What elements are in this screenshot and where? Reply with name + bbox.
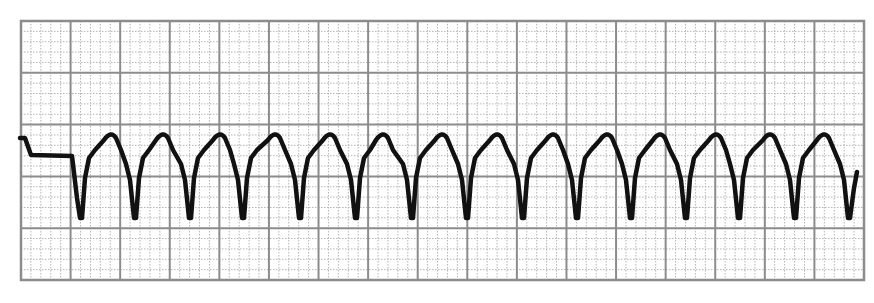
ecg-strip	[0, 0, 874, 303]
